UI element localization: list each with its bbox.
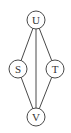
- node-s: S: [9, 60, 27, 78]
- graph-diagram: U S T V: [0, 0, 71, 133]
- node-t: T: [46, 60, 64, 78]
- node-u-label: U: [32, 14, 40, 26]
- node-v: V: [27, 108, 45, 126]
- node-u: U: [27, 11, 45, 29]
- node-s-label: S: [15, 63, 21, 75]
- node-t-label: T: [52, 63, 59, 75]
- node-v-label: V: [32, 111, 40, 123]
